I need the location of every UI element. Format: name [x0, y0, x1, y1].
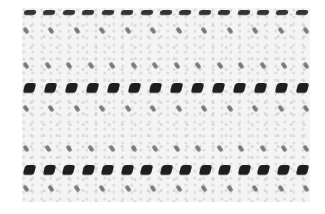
stitch-row [22, 81, 310, 95]
stitch-hole [42, 165, 56, 175]
stitch-hole [212, 83, 226, 93]
stitch-hole [101, 10, 114, 15]
stitch-hole [259, 144, 266, 152]
stitch-hole [120, 10, 133, 15]
stitch-hole [226, 26, 233, 34]
stitch-hole [44, 83, 58, 93]
stitch-hole [201, 184, 208, 192]
stitch-hole [73, 26, 80, 34]
stitch-row [22, 8, 310, 19]
stitch-hole [218, 10, 231, 15]
stitch-hole [140, 165, 154, 175]
stitch-hole [191, 83, 205, 93]
stitch-hole [226, 184, 233, 192]
stitch-hole [86, 83, 100, 93]
stitch-hole [175, 104, 182, 112]
stitch-row [22, 58, 310, 72]
stitch-hole [277, 184, 284, 192]
stitch-hole [226, 104, 233, 112]
stitch-hole [99, 26, 106, 34]
stitch-hole [73, 104, 80, 112]
stitch-hole [276, 10, 289, 15]
stitch-hole [23, 83, 37, 93]
stitch-hole [152, 61, 159, 69]
stitch-hole [256, 10, 269, 15]
stitch-hole [275, 83, 289, 93]
stitch-hole [120, 165, 134, 175]
stitch-hole [277, 104, 284, 112]
crochet-fabric-photo [22, 8, 310, 202]
stitch-hole [22, 26, 29, 34]
stitch-hole [179, 10, 192, 15]
stitch-hole [302, 144, 309, 152]
stitch-hole [216, 144, 223, 152]
stitch-row [22, 141, 310, 155]
stitch-hole [198, 10, 211, 15]
stitch-hole [48, 184, 55, 192]
stitch-hole [130, 61, 137, 69]
stitch-hole [150, 104, 157, 112]
stitch-hole [81, 165, 95, 175]
stitch-hole [108, 61, 115, 69]
stitch-hole [302, 61, 309, 69]
stitch-hole [44, 61, 51, 69]
stitch-hole [296, 83, 310, 93]
stitch-row [22, 23, 310, 37]
stitch-hole [124, 184, 131, 192]
stitch-hole [149, 83, 163, 93]
stitch-hole [302, 184, 309, 192]
stitch-hole [107, 83, 121, 93]
stitch-hole [173, 61, 180, 69]
stitch-hole [195, 144, 202, 152]
stitch-hole [259, 61, 266, 69]
stitch-hole [128, 83, 142, 93]
stitch-hole [22, 61, 29, 69]
stitch-hole [179, 165, 193, 175]
stitch-hole [65, 61, 72, 69]
stitch-hole [99, 104, 106, 112]
stitch-hole [150, 26, 157, 34]
stitch-hole [23, 165, 37, 175]
stitch-hole [87, 61, 94, 69]
stitch-hole [159, 165, 173, 175]
stitch-hole [201, 26, 208, 34]
stitch-hole [62, 10, 75, 15]
stitch-row [22, 181, 310, 195]
stitch-hole [22, 144, 29, 152]
stitch-hole [175, 184, 182, 192]
stitch-hole [44, 144, 51, 152]
stitch-hole [99, 184, 106, 192]
stitch-hole [108, 144, 115, 152]
stitch-hole [201, 104, 208, 112]
stitch-row [22, 163, 310, 177]
stitch-hole [281, 144, 288, 152]
stitch-hole [195, 61, 202, 69]
stitch-hole [170, 83, 184, 93]
stitch-hole [124, 26, 131, 34]
stitch-hole [65, 83, 79, 93]
stitch-hole [101, 165, 115, 175]
stitch-hole [62, 165, 76, 175]
stitch-hole [251, 184, 258, 192]
stitch-hole [140, 10, 153, 15]
stitch-hole [277, 26, 284, 34]
stitch-hole [150, 184, 157, 192]
stitch-hole [198, 165, 212, 175]
stitch-hole [251, 26, 258, 34]
stitch-hole [281, 61, 288, 69]
stitch-hole [23, 10, 36, 15]
stitch-hole [87, 144, 94, 152]
stitch-hole [257, 165, 271, 175]
stitch-hole [254, 83, 268, 93]
stitch-hole [73, 184, 80, 192]
stitch-hole [216, 61, 223, 69]
stitch-hole [43, 10, 56, 15]
stitch-hole [152, 144, 159, 152]
stitch-hole [82, 10, 95, 15]
stitch-hole [238, 144, 245, 152]
stitch-hole [238, 61, 245, 69]
stitch-hole [218, 165, 232, 175]
stitch-hole [251, 104, 258, 112]
stitch-hole [233, 83, 247, 93]
stitch-hole [302, 104, 309, 112]
